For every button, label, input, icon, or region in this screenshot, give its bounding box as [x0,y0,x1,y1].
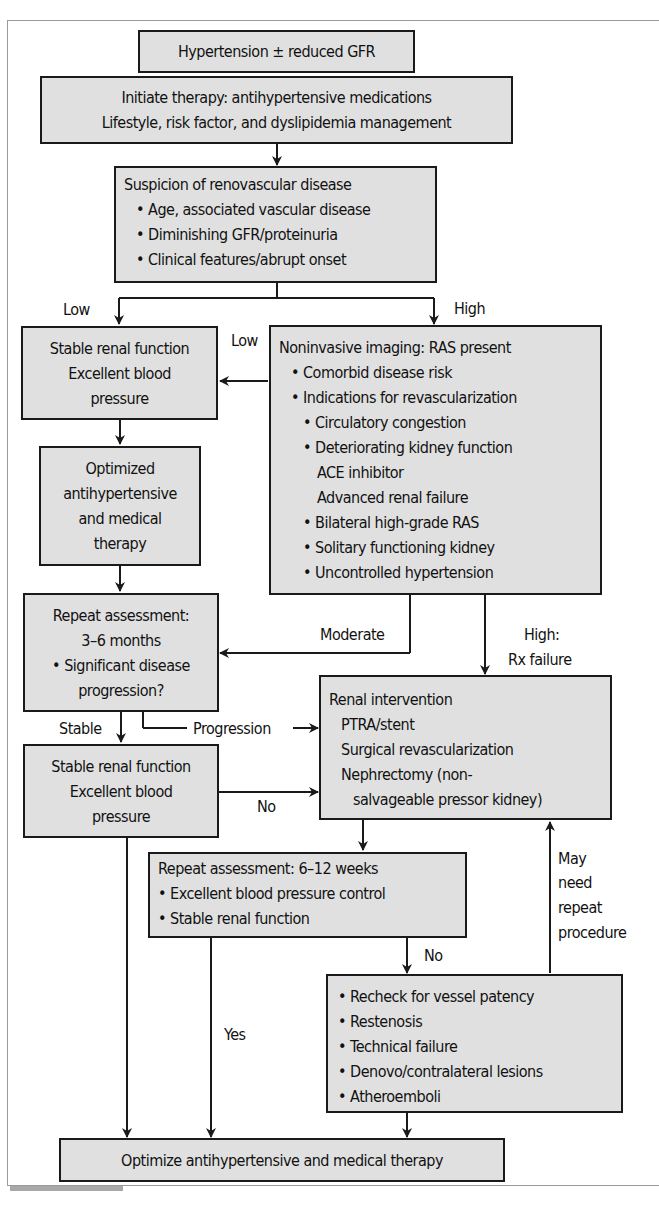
renal-intervention-box: Renal intervention PTRA/stent Surgical r… [319,675,612,820]
renal-item: Nephrectomy (non- [329,762,610,787]
label-no-right: No [424,946,443,966]
renal-item: PTRA/stent [329,712,610,737]
stable1-line: Excellent blood [68,361,171,386]
label-no-mid: No [257,797,276,817]
suspicion-title: Suspicion of renovascular disease [124,172,435,197]
stable-renal-box-2: Stable renal function Excellent blood pr… [23,744,219,838]
imaging-item: Advanced renal failure [279,485,600,510]
repeat2-bullet: • Stable renal function [158,906,465,931]
suspicion-bullet: • Diminishing GFR/proteinuria [124,222,435,247]
stable-renal-box-1: Stable renal function Excellent blood pr… [21,326,218,420]
renal-title: Renal intervention [329,687,610,712]
recheck-bullet: • Recheck for vessel patency [338,984,621,1009]
label-high-rx-2: Rx failure [508,650,572,670]
stable2-line: pressure [92,804,150,829]
imaging-item: ACE inhibitor [279,460,600,485]
repeat1-line: progression? [78,678,164,703]
final-box: Optimize antihypertensive and medical th… [59,1138,505,1182]
repeat2-bullet: • Excellent blood pressure control [158,881,465,906]
suspicion-bullet: • Age, associated vascular disease [124,197,435,222]
imaging-title: Noninvasive imaging: RAS present [279,335,600,360]
optimized-therapy-box: Optimized antihypertensive and medical t… [39,446,201,566]
repeat1-line: 3–6 months [81,628,160,653]
renal-item: salvageable pressor kidney) [329,787,610,812]
label-high-rx-1: High: [524,625,559,645]
label-may-need-3: repeat [558,898,602,918]
repeat-assessment-3-6-box: Repeat assessment: 3–6 months • Signific… [23,593,219,712]
label-stable: Stable [59,719,102,739]
optimized-line: antihypertensive [63,481,177,506]
imaging-item: • Deteriorating kidney function [279,435,600,460]
label-low-mid: Low [231,331,258,351]
stable2-line: Excellent blood [70,779,173,804]
recheck-bullet: • Denovo/contralateral lesions [338,1059,621,1084]
recheck-bullet: • Atheroemboli [338,1084,621,1109]
imaging-item: • Circulatory congestion [279,410,600,435]
imaging-item: • Comorbid disease risk [279,360,600,385]
footer-tab [10,1186,123,1191]
start-text: Hypertension ± reduced GFR [178,39,375,64]
suspicion-bullet: • Clinical features/abrupt onset [124,247,435,272]
stable2-line: Stable renal function [51,754,190,779]
imaging-item: • Bilateral high-grade RAS [279,510,600,535]
renal-item: Surgical revascularization [329,737,610,762]
stable1-line: Stable renal function [50,336,189,361]
label-may-need-2: need [558,873,592,893]
label-progression: Progression [193,719,271,739]
initiate-therapy-box: Initiate therapy: antihypertensive medic… [40,76,513,144]
repeat-assessment-6-12-box: Repeat assessment: 6–12 weeks • Excellen… [148,852,467,938]
imaging-item: • Solitary functioning kidney [279,535,600,560]
initiate-line-2: Lifestyle, risk factor, and dyslipidemia… [102,110,452,135]
imaging-item: • Indications for revascularization [279,385,600,410]
recheck-box: • Recheck for vessel patency • Restenosi… [326,974,623,1113]
optimized-line: therapy [94,531,147,556]
label-moderate: Moderate [320,625,384,645]
repeat1-line: Repeat assessment: [53,603,189,628]
label-yes: Yes [224,1025,246,1045]
label-may-need-1: May [558,849,586,869]
final-text: Optimize antihypertensive and medical th… [121,1148,443,1173]
imaging-item: • Uncontrolled hypertension [279,560,600,585]
suspicion-box: Suspicion of renovascular disease • Age,… [114,166,437,283]
label-low-left: Low [63,300,90,320]
recheck-bullet: • Technical failure [338,1034,621,1059]
initiate-line-1: Initiate therapy: antihypertensive medic… [121,85,431,110]
optimized-line: Optimized [85,456,154,481]
recheck-bullet: • Restenosis [338,1009,621,1034]
noninvasive-imaging-box: Noninvasive imaging: RAS present • Comor… [269,325,602,595]
repeat1-line: • Significant disease [52,653,190,678]
start-box: Hypertension ± reduced GFR [138,30,415,73]
label-high: High [454,299,485,319]
label-may-need-4: procedure [558,923,626,943]
stable1-line: pressure [90,386,148,411]
repeat2-title: Repeat assessment: 6–12 weeks [158,856,465,881]
optimized-line: and medical [79,506,162,531]
